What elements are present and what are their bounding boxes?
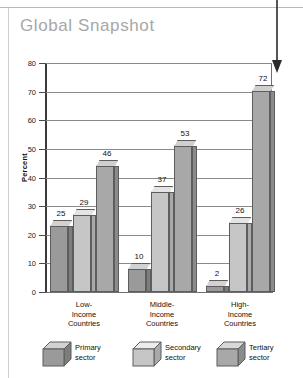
category-label-low-income-line3: Countries (49, 319, 119, 329)
page-title: Global Snapshot (20, 16, 155, 36)
category-label-middle-income-line2: Income (127, 310, 197, 320)
gridline-10 (45, 263, 272, 264)
x-axis-line (45, 292, 273, 293)
y-tick-40 (39, 178, 46, 179)
legend-cube-primary-icon (42, 341, 72, 367)
legend-label-primary-sector-line1: Primary (75, 343, 101, 353)
legend-cube-secondary-icon (132, 341, 162, 367)
y-tick-10 (39, 263, 46, 264)
chart-legend: Primary sector Secondary sector Tert (20, 337, 290, 373)
legend-label-tertiary-sector-line2: sector (249, 353, 274, 363)
y-tick-50 (39, 149, 46, 150)
legend-label-primary-sector-line2: sector (75, 353, 101, 363)
category-label-high-income-line2: Income (205, 310, 275, 320)
y-tick-label-20: 20 (12, 231, 36, 240)
category-label-high-income: High- Income Countries (205, 300, 275, 329)
y-tick-label-80: 80 (12, 59, 36, 68)
legend-label-secondary-sector-line2: sector (165, 353, 201, 363)
y-tick-20 (39, 235, 46, 236)
chart-page: Global Snapshot 80 70 60 50 40 30 20 10 … (0, 0, 303, 378)
legend-cube-tertiary-icon (216, 341, 246, 367)
legend-label-tertiary-sector: Tertiary sector (249, 343, 274, 362)
category-label-middle-income-line1: Middle- (127, 300, 197, 310)
y-axis-title: Percent (20, 138, 29, 198)
y-tick-30 (39, 206, 46, 207)
category-label-middle-income: Middle- Income Countries (127, 300, 197, 329)
gridline-70 (45, 92, 272, 93)
category-label-low-income-line2: Income (49, 310, 119, 320)
page-top-rule (0, 7, 303, 8)
gridline-50 (45, 149, 272, 150)
y-tick-70 (39, 92, 46, 93)
legend-label-primary-sector: Primary sector (75, 343, 101, 362)
y-tick-label-0: 0 (12, 288, 36, 297)
y-tick-label-10: 10 (12, 259, 36, 268)
y-tick-label-60: 60 (12, 116, 36, 125)
y-tick-label-70: 70 (12, 88, 36, 97)
gridline-60 (45, 120, 272, 121)
y-tick-80 (39, 63, 46, 64)
legend-label-tertiary-sector-line1: Tertiary (249, 343, 274, 353)
legend-label-secondary-sector: Secondary sector (165, 343, 201, 362)
category-label-high-income-line1: High- (205, 300, 275, 310)
category-label-high-income-line3: Countries (205, 319, 275, 329)
category-label-low-income-line1: Low- (49, 300, 119, 310)
gridline-80 (45, 63, 272, 64)
y-tick-60 (39, 120, 46, 121)
y-tick-label-30: 30 (12, 202, 36, 211)
gridline-30 (45, 206, 272, 207)
gridline-40 (45, 178, 272, 179)
category-label-middle-income-line3: Countries (127, 319, 197, 329)
gridline-20 (45, 235, 272, 236)
page-left-rule (8, 8, 9, 378)
y-tick-0 (39, 292, 46, 293)
down-arrow-callout-icon (270, 0, 284, 75)
legend-label-secondary-sector-line1: Secondary (165, 343, 201, 353)
category-label-low-income: Low- Income Countries (49, 300, 119, 329)
